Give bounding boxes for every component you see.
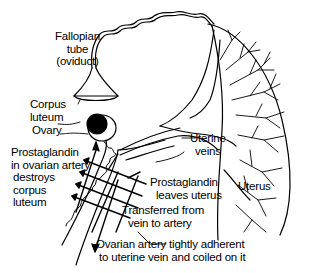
label-line: tube bbox=[55, 43, 100, 56]
label-line: vein to artery bbox=[122, 217, 204, 230]
label-line: leaves uterus bbox=[150, 189, 222, 202]
label-line: Transferred from bbox=[122, 204, 204, 217]
label-line: Corpus bbox=[30, 98, 66, 111]
label-uterus: Uterus bbox=[238, 180, 271, 193]
branching-vessels bbox=[220, 30, 284, 232]
label-transferred: Transferred from vein to artery bbox=[122, 204, 204, 229]
label-line: Ovarian artery tightly adherent bbox=[96, 238, 245, 251]
diagram-artwork bbox=[0, 0, 314, 273]
label-corpus-luteum: Corpus luteum bbox=[30, 98, 66, 123]
label-line: Prostaglandin bbox=[11, 146, 90, 159]
label-line: (oviduct) bbox=[55, 55, 100, 68]
label-line: corpus bbox=[11, 184, 90, 197]
label-ovary: Ovary bbox=[32, 124, 62, 137]
label-uterine-veins: Uterine veins bbox=[190, 132, 226, 157]
label-line: Uterine bbox=[190, 132, 226, 145]
label-line: to uterine vein and coiled on it bbox=[96, 251, 245, 264]
label-line: luteum bbox=[11, 196, 90, 209]
label-line: destroys bbox=[11, 171, 90, 184]
label-ovarian-artery: Ovarian artery tightly adherent to uteri… bbox=[96, 238, 245, 263]
label-line: luteum bbox=[30, 111, 66, 124]
label-prostaglandin-artery: Prostaglandin in ovarian artery destroys… bbox=[11, 146, 90, 209]
label-line: veins bbox=[190, 145, 226, 158]
label-fallopian-tube: Fallopian tube (oviduct) bbox=[55, 30, 100, 68]
label-line: in ovarian artery bbox=[11, 159, 90, 172]
ovary bbox=[58, 114, 116, 141]
label-line: Prostaglandin bbox=[150, 176, 222, 189]
uterine-veins bbox=[120, 30, 250, 200]
label-line: Fallopian bbox=[55, 30, 100, 43]
label-prostaglandin-leaves: Prostaglandin leaves uterus bbox=[150, 176, 222, 201]
